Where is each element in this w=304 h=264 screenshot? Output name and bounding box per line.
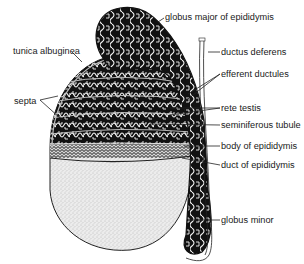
label-rete-testis: rete testis — [221, 103, 261, 113]
label-globus-major: globus major of epididymis — [165, 12, 274, 22]
label-duct-of-epididymis: duct of epididymis — [221, 160, 295, 170]
label-septa: septa — [14, 96, 37, 106]
label-body-of-epididymis: body of epididymis — [221, 141, 297, 151]
label-globus-minor: globus minor — [221, 215, 274, 225]
label-tunica-albuginea: tunica albuginea — [13, 46, 81, 56]
label-efferent-ductules: efferent ductules — [221, 69, 289, 79]
label-seminiferous-tubule: seminiferous tubule — [221, 120, 301, 130]
label-ductus-deferens: ductus deferens — [221, 47, 287, 57]
testis-diagram: globus major of epididymis tunica albugi… — [0, 0, 304, 264]
